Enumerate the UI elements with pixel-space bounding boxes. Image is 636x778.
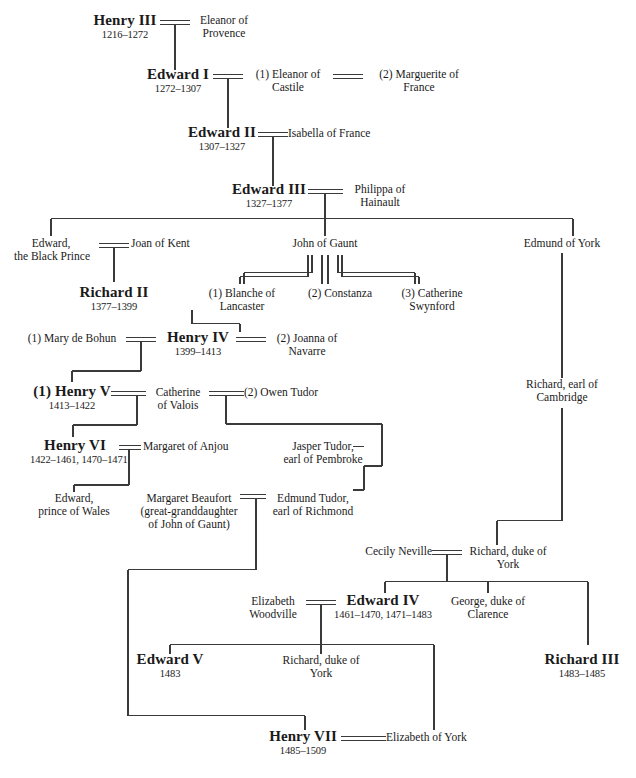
person-dates: 1377–1399 — [72, 301, 156, 313]
person-name: Henry VI — [30, 437, 120, 454]
person-name-line1: Eleanor of — [190, 14, 258, 27]
person-isabella-of-france: Isabella of France — [288, 127, 398, 140]
person-name-line1: (2) Marguerite of — [363, 68, 475, 81]
person-richard-earl-of-cambridge: Richard, earl of Cambridge — [506, 378, 618, 404]
person-name: Edward IV — [328, 592, 438, 609]
person-name-line1: Richard, earl of — [506, 378, 618, 391]
person-edward-iv: Edward IV 1461–1470, 1471–1483 — [328, 592, 438, 621]
person-dates: 1422–1461, 1470–1471 — [30, 454, 120, 466]
person-name: Henry III — [90, 12, 160, 29]
person-name-line1: Jasper Tudor, — [279, 440, 367, 453]
person-mary-de-bohun: (1) Mary de Bohun — [18, 332, 126, 345]
person-name-line1: Edmund of York — [508, 237, 616, 250]
person-name: Richard III — [535, 651, 629, 668]
person-name-line2: Cambridge — [506, 391, 618, 404]
person-george-duke-of-clarence: George, duke of Clarence — [440, 595, 536, 621]
person-name: Henry IV — [160, 329, 236, 346]
person-john-of-gaunt: John of Gaunt — [272, 237, 378, 250]
person-name-line1: (1) Blanche of — [196, 287, 288, 300]
person-name-line1: (2) Owen Tudor — [244, 386, 336, 399]
person-owen-tudor: (2) Owen Tudor — [244, 386, 336, 399]
person-eleanor-of-provence: Eleanor of Provence — [190, 14, 258, 40]
person-edmund-tudor: Edmund Tudor, earl of Richmond — [266, 492, 360, 518]
person-name-line1: Elizabeth — [240, 595, 306, 608]
person-blanche-of-lancaster: (1) Blanche of Lancaster — [196, 287, 288, 313]
person-name-line1: Elizabeth of York — [386, 731, 496, 744]
person-marguerite-of-france: (2) Marguerite of France — [363, 68, 475, 94]
person-name-line1: Margaret of Anjou — [143, 440, 247, 453]
person-dates: 1307–1327 — [186, 141, 258, 153]
person-name: Edward III — [230, 181, 308, 198]
person-name-line2: Castile — [243, 81, 333, 94]
person-catherine-of-valois: Catherine of Valois — [146, 386, 210, 412]
person-henry-v: (1) Henry V 1413–1422 — [30, 383, 114, 412]
person-philippa-of-hainault: Philippa of Hainault — [345, 183, 415, 209]
person-name-line1: Richard, duke of — [274, 654, 368, 667]
person-name-line1: Isabella of France — [288, 127, 398, 140]
person-catherine-swynford: (3) Catherine Swynford — [387, 287, 477, 313]
person-elizabeth-of-york: Elizabeth of York — [386, 731, 496, 744]
person-name-line1: (2) Constanza — [297, 287, 383, 300]
person-name-line1: Edward, — [14, 237, 88, 250]
person-name-line2: Lancaster — [196, 300, 288, 313]
person-richard-iii: Richard III 1483–1485 — [535, 651, 629, 680]
person-name-line2: of Valois — [146, 399, 210, 412]
person-margaret-beaufort: Margaret Beaufort (great-granddaughter o… — [134, 492, 244, 531]
person-dates: 1483 — [126, 668, 214, 680]
person-dates: 1483–1485 — [535, 668, 629, 680]
person-dates: 1399–1413 — [160, 346, 236, 358]
person-name-line1: (1) Mary de Bohun — [18, 332, 126, 345]
person-eleanor-of-castile: (1) Eleanor of Castile — [243, 68, 333, 94]
person-name-line1: Edward, — [22, 492, 126, 505]
person-name: Edward II — [186, 124, 258, 141]
person-name-line1: Cecily Neville — [344, 545, 432, 558]
person-name-line2: Woodville — [240, 608, 306, 621]
family-tree-diagram: Henry III 1216–1272 Eleanor of Provence … — [0, 0, 636, 778]
person-dates: 1413–1422 — [30, 400, 114, 412]
person-name: Edward I — [143, 66, 213, 83]
person-richard-ii: Richard II 1377–1399 — [72, 284, 156, 313]
person-name: Richard II — [72, 284, 156, 301]
person-name-line3: of John of Gaunt) — [134, 518, 244, 531]
person-name-line2: York — [462, 558, 554, 571]
person-richard-duke-of-york: Richard, duke of York — [462, 545, 554, 571]
person-dates: 1272–1307 — [143, 83, 213, 95]
person-name-line2: Swynford — [387, 300, 477, 313]
person-dates: 1216–1272 — [90, 29, 160, 41]
person-dates: 1485–1509 — [265, 745, 341, 757]
person-edward-black-prince: Edward, the Black Prince — [14, 237, 88, 263]
person-dates: 1461–1470, 1471–1483 — [328, 609, 438, 621]
person-name-line1: (1) Eleanor of — [243, 68, 333, 81]
person-name-line2: earl of Pembroke — [279, 453, 367, 466]
person-name-line2: prince of Wales — [22, 505, 126, 518]
person-richard-duke-of-york-son: Richard, duke of York — [274, 654, 368, 680]
person-name: Henry VII — [265, 728, 341, 745]
person-name-line2: Provence — [190, 27, 258, 40]
person-name-line1: Philippa of — [345, 183, 415, 196]
person-name-line1: Catherine — [146, 386, 210, 399]
person-jasper-tudor: Jasper Tudor, earl of Pembroke — [279, 440, 367, 466]
person-name-line2: Clarence — [440, 608, 536, 621]
person-name: Edward V — [126, 651, 214, 668]
person-henry-iv: Henry IV 1399–1413 — [160, 329, 236, 358]
person-name-line1: John of Gaunt — [272, 237, 378, 250]
person-name-line1: (2) Joanna of — [266, 332, 348, 345]
person-name-line1: Richard, duke of — [462, 545, 554, 558]
person-name-line2: earl of Richmond — [266, 505, 360, 518]
person-name-line2: (great-granddaughter — [134, 505, 244, 518]
person-joanna-of-navarre: (2) Joanna of Navarre — [266, 332, 348, 358]
person-name-line1: (3) Catherine — [387, 287, 477, 300]
person-name-line2: the Black Prince — [14, 250, 88, 263]
person-name-line1: Edmund Tudor, — [266, 492, 360, 505]
person-henry-vii: Henry VII 1485–1509 — [265, 728, 341, 757]
person-name-line1: Joan of Kent — [131, 237, 211, 250]
person-name-line2: York — [274, 667, 368, 680]
person-edward-i: Edward I 1272–1307 — [143, 66, 213, 95]
person-constanza: (2) Constanza — [297, 287, 383, 300]
person-henry-vi: Henry VI 1422–1461, 1470–1471 — [30, 437, 120, 466]
person-name-line1: George, duke of — [440, 595, 536, 608]
person-edward-iii: Edward III 1327–1377 — [230, 181, 308, 210]
person-dates: 1327–1377 — [230, 198, 308, 210]
person-cecily-neville: Cecily Neville — [344, 545, 432, 558]
person-henry-iii: Henry III 1216–1272 — [90, 12, 160, 41]
